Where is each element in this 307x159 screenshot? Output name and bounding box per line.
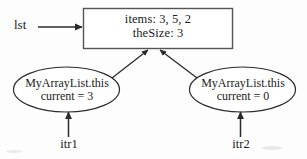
list-box-items-line: items: 3, 5, 2 — [84, 13, 232, 27]
list-box-text: items: 3, 5, 2 theSize: 3 — [84, 13, 232, 40]
iterator-2-text: MyArrayList.this current = 0 — [190, 77, 296, 103]
iterator-1-outer-ref: MyArrayList.this — [14, 77, 120, 90]
scan-speck — [262, 146, 282, 150]
itr1-variable-label: itr1 — [48, 138, 90, 152]
iterator-2-to-list-arrow — [160, 50, 197, 78]
lst-label: lst — [14, 18, 26, 32]
itr2-variable-label: itr2 — [220, 138, 262, 152]
iterator-1-to-list-arrow — [112, 50, 148, 78]
list-box-size-line: theSize: 3 — [84, 27, 232, 41]
iterator-1-text: MyArrayList.this current = 3 — [14, 77, 120, 103]
iterator-2-outer-ref: MyArrayList.this — [190, 77, 296, 90]
diagram-canvas: lst items: 3, 5, 2 theSize: 3 MyArrayLis… — [0, 0, 307, 159]
scan-speck — [6, 150, 22, 153]
iterator-1-current: current = 3 — [14, 90, 120, 103]
iterator-2-current: current = 0 — [190, 90, 296, 103]
